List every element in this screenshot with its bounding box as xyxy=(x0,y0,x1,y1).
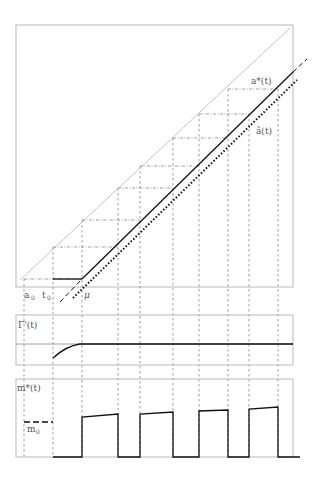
a-tilde-label: ã(t) xyxy=(256,126,272,136)
t0-label: t 0 xyxy=(42,290,51,301)
mstar-frame xyxy=(16,379,293,457)
svg-text:m: m xyxy=(27,424,36,434)
svg-text:t: t xyxy=(42,290,46,300)
horizontal-grid xyxy=(24,89,278,279)
mu-label: μ xyxy=(84,290,90,300)
m0-label: m 0 xyxy=(27,424,40,435)
a-star-extension-upper xyxy=(293,59,307,72)
svg-text:0: 0 xyxy=(31,294,35,301)
main-panel xyxy=(16,25,293,287)
a-star-curve xyxy=(53,59,307,302)
a-star-label: a*(t) xyxy=(251,76,272,86)
m-star-label: m*(t) xyxy=(17,383,41,393)
diagram-canvas: a*(t) ã(t) a 0 t 0 μ Γ'(t) m*(t) m 0 xyxy=(0,0,318,483)
svg-text:0: 0 xyxy=(47,294,51,301)
vertical-grid xyxy=(24,89,278,457)
svg-text:a: a xyxy=(24,290,30,300)
a0-label: a 0 xyxy=(24,290,35,301)
a-star-extension-lower xyxy=(60,279,82,302)
a-star-line xyxy=(82,72,293,279)
gamma-frame xyxy=(16,315,293,365)
svg-text:0: 0 xyxy=(36,428,40,435)
gamma-prime-label: Γ'(t) xyxy=(18,320,37,330)
reference-diagonal xyxy=(20,28,290,280)
gamma-panel: Γ'(t) xyxy=(16,315,293,365)
m-star-pulse-train xyxy=(53,407,300,457)
mstar-panel: m*(t) m 0 xyxy=(16,379,300,457)
gamma-prime-curve xyxy=(53,344,293,358)
a-tilde-line xyxy=(73,80,297,298)
